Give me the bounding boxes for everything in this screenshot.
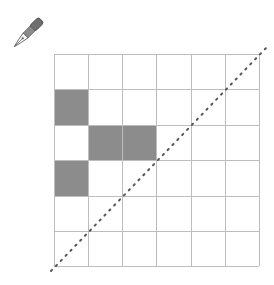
grid-diagram bbox=[0, 0, 274, 285]
shaded-cell bbox=[88, 125, 122, 160]
shaded-cells bbox=[54, 89, 156, 196]
shaded-cell bbox=[54, 89, 88, 125]
shaded-cell bbox=[122, 125, 156, 160]
shaded-cell bbox=[54, 160, 88, 196]
dotted-diagonal-line bbox=[51, 47, 267, 271]
fountain-pen-icon bbox=[11, 17, 44, 50]
